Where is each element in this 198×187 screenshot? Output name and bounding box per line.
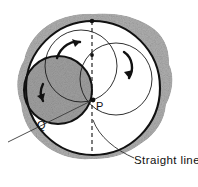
point-q-label: Q — [37, 119, 46, 131]
point-p-marker — [91, 98, 96, 103]
point-p-label: P — [96, 100, 103, 112]
geometric-diagram: P Q Straight line — [0, 0, 198, 187]
straight-line-label: Straight line — [134, 154, 198, 166]
point-top-marker — [90, 19, 95, 24]
geometric-figure-container: P Q Straight line — [0, 0, 198, 187]
point-mid-marker — [90, 53, 94, 57]
